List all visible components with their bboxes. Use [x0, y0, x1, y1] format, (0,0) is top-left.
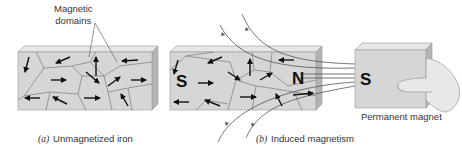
caption-b-text: Induced magnetism — [271, 133, 354, 144]
iron-north-pole-label: N — [292, 69, 304, 89]
unmagnetized-iron-block — [18, 23, 158, 110]
induced-iron-block — [170, 14, 355, 142]
permanent-magnet-label: Permanent magnet — [361, 111, 442, 122]
caption-a-text: Unmagnetized iron — [53, 133, 133, 144]
magnetic-domains-label-line2: domains — [54, 15, 93, 27]
caption-a: (a)Unmagnetized iron — [38, 133, 133, 144]
caption-b: (b)Induced magnetism — [256, 133, 354, 144]
magnetic-domains-label-line1: Magnetic — [54, 3, 93, 15]
iron-south-pole-label: S — [176, 72, 187, 92]
magnet-south-pole-label: S — [360, 70, 371, 90]
caption-b-marker: (b) — [256, 134, 267, 144]
magnetic-domains-label: Magnetic domains — [54, 3, 93, 27]
caption-a-marker: (a) — [38, 134, 49, 144]
